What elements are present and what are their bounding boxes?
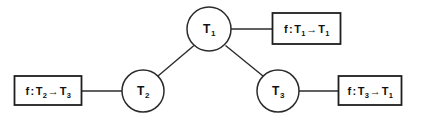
label-box-t2-codomain: T (60, 85, 67, 97)
label-box-t1-codomain-sub: 1 (325, 29, 329, 38)
arrow-right-icon: → (369, 85, 382, 97)
label-box-t3-domain-sub: 3 (365, 91, 369, 100)
node-label-t2-base: T (137, 84, 144, 98)
label-box-t2-text: f:T2→T3 (25, 86, 70, 97)
edge-t1-t2 (158, 46, 194, 77)
node-label-t1-base: T (203, 22, 210, 36)
diagram-vector-layer (0, 0, 421, 130)
node-label-t2: T2 (137, 85, 149, 97)
node-label-t1-sub: 1 (211, 29, 215, 38)
node-label-t3: T3 (272, 85, 284, 97)
label-box-t3-codomain-sub: 1 (389, 91, 393, 100)
label-box-t3-codomain: T (382, 85, 389, 97)
diagram-canvas: T1 T2 T3 f:T1→T1 f:T2→T3 f:T3→T1 (0, 0, 421, 130)
node-label-t3-sub: 3 (280, 91, 284, 100)
arrow-right-icon: → (47, 85, 60, 97)
edge-t1-t3 (226, 46, 264, 77)
label-box-t1-codomain: T (318, 23, 325, 35)
label-box-t3-text: f:T3→T1 (347, 86, 392, 97)
node-label-t2-sub: 2 (145, 91, 149, 100)
node-label-t1: T1 (203, 23, 215, 35)
arrow-right-icon: → (305, 23, 318, 35)
node-label-t3-base: T (272, 84, 279, 98)
label-box-t2-domain-sub: 2 (43, 91, 47, 100)
label-box-t1-text: f:T1→T1 (284, 24, 329, 35)
label-box-t1-domain-sub: 1 (301, 29, 305, 38)
label-box-t2-codomain-sub: 3 (67, 91, 71, 100)
